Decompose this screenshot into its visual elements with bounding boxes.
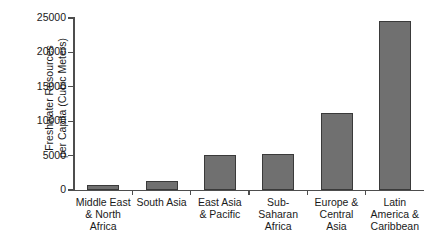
bar [87,185,119,190]
bar-chart: Freshwater Resources per Capita (Cubic M… [0,0,432,239]
bar [321,113,353,190]
y-axis-tick-label: 0 [18,183,66,195]
x-axis-category-label: Middle East & North Africa [71,196,135,233]
y-axis-tick-label: 20000 [18,45,66,57]
y-axis-tick [68,155,74,156]
y-axis-tick [68,86,74,87]
y-axis-title: Freshwater Resources per Capita (Cubic M… [38,0,74,196]
bar [379,21,411,190]
y-axis-tick [68,52,74,53]
x-axis-tick [307,190,308,195]
x-axis-tick [132,190,133,195]
y-axis-title-line-1: Freshwater Resources [43,45,56,151]
y-axis-tick [68,189,74,190]
x-axis-category-label: East Asia & Pacific [188,196,252,220]
x-axis-tick [190,190,191,195]
x-axis-tick [365,190,366,195]
bar [146,181,178,190]
y-axis-tick-label: 5000 [18,149,66,161]
y-axis-line [73,17,75,191]
y-axis-tick [68,17,74,18]
y-axis-tick-label: 15000 [18,80,66,92]
x-axis-category-label: Europe & Central Asia [304,196,368,233]
y-axis-tick [68,121,74,122]
x-axis-category-label: Sub- Saharan Africa [246,196,310,233]
x-axis-tick [248,190,249,195]
y-axis-tick-label: 10000 [18,114,66,126]
bar [262,154,294,190]
y-axis-tick-label: 25000 [18,11,66,23]
bar [204,155,236,190]
x-axis-category-label: Latin America & Caribbean [363,196,427,233]
x-axis-category-label: South Asia [129,196,193,208]
